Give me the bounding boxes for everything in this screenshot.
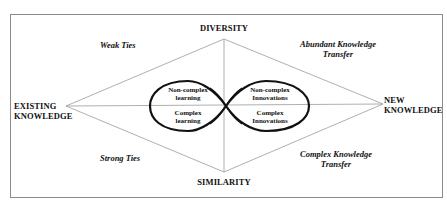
noncomplex-innovations-line2: Innovations [238, 94, 302, 102]
new-line2: KNOWLEDGE [384, 106, 443, 116]
noncomplex-learning-line2: learning [158, 94, 218, 102]
right-loop-lower-text: Complex Innovations [238, 109, 302, 125]
quadrant-label-complex-knowledge-transfer: Complex Knowledge Transfer [291, 150, 381, 170]
axis-label-similarity: SIMILARITY [192, 178, 256, 188]
right-loop-upper-text: Non-complex Innovations [238, 86, 302, 102]
quadrant-label-weak-ties: Weak Ties [100, 41, 136, 51]
axis-label-new-knowledge: NEW KNOWLEDGE [384, 96, 443, 116]
noncomplex-innovations-line1: Non-complex [238, 86, 302, 94]
complex-innovations-line2: Innovations [238, 117, 302, 125]
quadrant-label-abundant-knowledge-transfer: Abundant Knowledge Transfer [290, 40, 386, 60]
left-loop-upper-text: Non-complex learning [158, 86, 218, 102]
complex-innovations-line1: Complex [238, 109, 302, 117]
complex-learning-line2: learning [158, 117, 218, 125]
existing-line2: KNOWLEDGE [14, 112, 73, 122]
axis-label-diversity: DIVERSITY [194, 24, 254, 34]
quadrant-label-strong-ties: Strong Ties [100, 154, 140, 164]
noncomplex-learning-line1: Non-complex [158, 86, 218, 94]
left-loop-lower-text: Complex learning [158, 109, 218, 125]
complex-transfer-line2: Transfer [291, 160, 381, 170]
abundant-line2: Transfer [290, 50, 386, 60]
axis-label-existing-knowledge: EXISTING KNOWLEDGE [14, 102, 73, 122]
complex-learning-line1: Complex [158, 109, 218, 117]
